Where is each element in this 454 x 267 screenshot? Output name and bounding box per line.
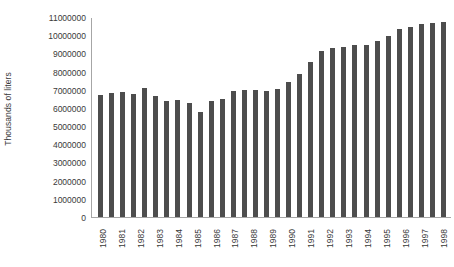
bar-slot [206,18,217,217]
x-axis-tick: 1992 [326,229,335,248]
x-slot: 1980 [94,220,113,267]
bar-slot [272,18,283,217]
bar [430,23,435,217]
y-axis-tick-labels: 1100000010000000900000080000007000000600… [16,0,90,226]
bar-slot [261,18,272,217]
y-axis-tick: 1000000 [53,195,86,204]
x-slot: 1990 [283,220,302,267]
y-axis-title: Thousands of liters [0,0,16,218]
bar [220,99,225,217]
x-slot: 1997 [416,220,435,267]
y-axis-tick: 7000000 [53,86,86,95]
x-axis-tick-labels: 1980198119821983198419851986198719881989… [91,220,451,267]
bar [120,92,125,217]
bar [319,51,324,217]
x-axis-tick: 1984 [175,229,184,248]
bar [264,91,269,217]
x-slot: 1995 [378,220,397,267]
bar-slot [416,18,427,217]
x-slot: 1985 [189,220,208,267]
bar [231,91,236,217]
x-slot: 1993 [340,220,359,267]
x-axis-tick: 1996 [402,229,411,248]
y-axis-tick: 10000000 [48,32,86,41]
bar [308,62,313,217]
bar-series [92,18,451,217]
bar-chart: Thousands of liters 11000000100000009000… [0,0,454,267]
bar-slot [195,18,206,217]
plot-area [91,18,451,218]
bar-slot [106,18,117,217]
bar [441,22,446,217]
bar-slot [250,18,261,217]
bar-slot [372,18,383,217]
x-slot: 1994 [359,220,378,267]
bar-slot [184,18,195,217]
x-axis-tick: 1983 [156,229,165,248]
x-slot: 1989 [264,220,283,267]
bar [175,100,180,217]
bar-slot [305,18,316,217]
bar [242,90,247,217]
bar [386,36,391,217]
y-axis-tick: 3000000 [53,159,86,168]
y-axis-tick: 8000000 [53,68,86,77]
bar-slot [383,18,394,217]
bar [419,24,424,217]
bar [164,101,169,217]
bar [397,29,402,217]
y-axis-tick: 5000000 [53,123,86,132]
bar [297,74,302,217]
bar-slot [117,18,128,217]
bar-slot [316,18,327,217]
y-axis-tick: 9000000 [53,50,86,59]
bar-slot [95,18,106,217]
bar [408,27,413,217]
x-slot: 1988 [245,220,264,267]
bar-slot [427,18,438,217]
bar [364,45,369,217]
x-slot: 1982 [132,220,151,267]
x-slot: 1991 [302,220,321,267]
bar-slot [139,18,150,217]
bar-slot [239,18,250,217]
bar-slot [349,18,360,217]
y-axis-title-label: Thousands of liters [3,72,13,146]
x-axis-tick: 1990 [288,229,297,248]
x-slot: 1992 [321,220,340,267]
x-axis-tick: 1982 [137,229,146,248]
x-axis-tick: 1997 [421,229,430,248]
x-slot: 1986 [208,220,227,267]
x-axis-tick: 1991 [307,229,316,248]
x-axis-tick: 1989 [269,229,278,248]
y-axis-tick: 2000000 [53,177,86,186]
bar-slot [394,18,405,217]
bar-slot [172,18,183,217]
x-slot: 1984 [170,220,189,267]
bar [275,89,280,217]
x-axis-tick: 1981 [118,229,127,248]
bar [375,41,380,217]
bar-slot [128,18,139,217]
x-axis-tick: 1994 [364,229,373,248]
bar [352,45,357,217]
x-axis-tick: 1985 [194,229,203,248]
x-axis-tick: 1987 [231,229,240,248]
bar-slot [438,18,449,217]
x-axis-tick: 1993 [345,229,354,248]
bar-slot [217,18,228,217]
x-slot: 1981 [113,220,132,267]
y-axis-tick: 6000000 [53,104,86,113]
bar [98,95,103,217]
bar [253,90,258,217]
x-axis-tick: 1986 [212,229,221,248]
bar-slot [327,18,338,217]
bar-slot [161,18,172,217]
x-slot: 1998 [435,220,454,267]
bar-slot [228,18,239,217]
x-slot: 1987 [226,220,245,267]
bar [286,82,291,217]
bar [209,101,214,217]
bar [198,112,203,217]
x-axis-tick: 1995 [383,229,392,248]
